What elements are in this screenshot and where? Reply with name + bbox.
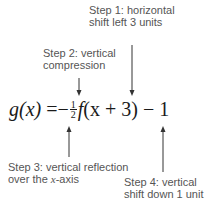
step3-line2: over the x-axis bbox=[8, 173, 128, 185]
step4-arrow-up-icon bbox=[161, 126, 166, 172]
equation-constant: 1 bbox=[159, 98, 169, 120]
step4-label: Step 4: vertical shift down 1 unit bbox=[124, 176, 204, 200]
equation-equals: = bbox=[46, 98, 57, 120]
equation-operator: − bbox=[143, 98, 154, 120]
equation-lhs: g(x) bbox=[9, 98, 41, 120]
equation: g(x) =−12f(x + 3) − 1 bbox=[9, 97, 169, 121]
equation-sign: − bbox=[57, 98, 68, 120]
step2-arrow-down-icon bbox=[77, 78, 82, 96]
step3-label: Step 3: vertical reflection over the x-a… bbox=[8, 161, 128, 185]
fraction-denominator: 2 bbox=[70, 110, 77, 119]
transformation-diagram: Step 1: horizontal shift left 3 units St… bbox=[0, 0, 207, 215]
step3-line1: Step 3: vertical reflection bbox=[8, 161, 128, 173]
step1-arrow-down-icon bbox=[130, 45, 135, 96]
step4-line2: shift down 1 unit bbox=[124, 188, 204, 200]
equation-argument: (x + 3) bbox=[83, 98, 138, 120]
step3-arrow-up-icon bbox=[67, 126, 72, 157]
step4-line1: Step 4: vertical bbox=[124, 176, 204, 188]
equation-fraction: 12 bbox=[70, 100, 77, 119]
